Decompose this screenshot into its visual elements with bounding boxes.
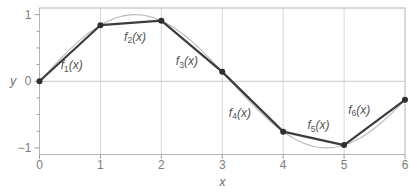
segment-label-f2: f2(x) bbox=[124, 30, 146, 46]
segment-label-f4: f4(x) bbox=[229, 106, 251, 122]
x-tick-label-6: 6 bbox=[402, 158, 409, 172]
x-axis-label: x bbox=[218, 175, 226, 189]
data-point-x0 bbox=[37, 78, 43, 84]
data-point-x5 bbox=[341, 142, 347, 148]
y-tick-label-0: 0 bbox=[25, 74, 32, 88]
x-tick-label-3: 3 bbox=[219, 158, 226, 172]
x-tick-label-0: 0 bbox=[36, 158, 43, 172]
x-tick-label-4: 4 bbox=[280, 158, 287, 172]
y-axis-label: y bbox=[9, 74, 17, 88]
x-tick-label-1: 1 bbox=[97, 158, 104, 172]
segment-label-f1: f1(x) bbox=[61, 58, 83, 74]
data-point-x6 bbox=[402, 97, 408, 103]
data-point-x1 bbox=[97, 22, 103, 28]
segment-label-f6: f6(x) bbox=[348, 103, 370, 119]
x-tick-label-5: 5 bbox=[341, 158, 348, 172]
segment-label-f5: f5(x) bbox=[307, 118, 329, 134]
segment-label-f3: f3(x) bbox=[176, 54, 198, 70]
data-point-x3 bbox=[219, 69, 225, 75]
chart-canvas: 0123456−101f1(x)f2(x)f3(x)f4(x)f5(x)f6(x… bbox=[0, 0, 410, 196]
data-point-x4 bbox=[280, 129, 286, 135]
y-tick-label--1: −1 bbox=[18, 141, 32, 155]
figure: 0123456−101f1(x)f2(x)f3(x)f4(x)f5(x)f6(x… bbox=[0, 0, 410, 196]
data-point-x2 bbox=[158, 18, 164, 24]
y-tick-label-1: 1 bbox=[25, 8, 32, 22]
x-tick-label-2: 2 bbox=[158, 158, 165, 172]
